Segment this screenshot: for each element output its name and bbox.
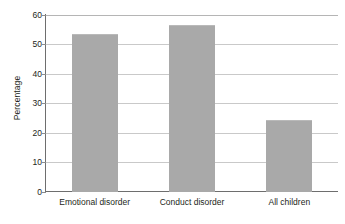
y-axis-tick-mark [42,44,46,45]
x-axis-tick-label: Conduct disorder [160,198,225,207]
x-axis-tick-label: Emotional disorder [59,198,130,207]
y-axis-tick-label: 60 [24,10,42,19]
y-axis-tick-mark [42,103,46,104]
x-axis-tick-label: All children [269,198,311,207]
y-axis-tick-label: 0 [24,187,42,196]
bar-chart-figure: Percentage 0102030405060 Emotional disor… [0,0,345,224]
bar [169,25,215,191]
bar [72,34,118,191]
y-axis-title: Percentage [10,0,24,195]
y-axis-tick-label: 30 [24,99,42,108]
y-axis-tick-label: 50 [24,40,42,49]
y-axis-title-label: Percentage [12,75,22,119]
y-axis-tick-labels: 0102030405060 [24,0,42,224]
y-axis-tick-mark [42,133,46,134]
y-axis-tick-mark [42,162,46,163]
y-axis-tick-mark [42,15,46,16]
x-axis-tick-labels: Emotional disorderConduct disorderAll ch… [46,198,338,216]
bar [266,120,312,192]
plot-area [46,15,338,192]
gridline [46,15,338,16]
y-axis-tick-label: 10 [24,158,42,167]
y-axis-tick-label: 20 [24,128,42,137]
y-axis-tick-mark [42,74,46,75]
y-axis-tick-mark [42,192,46,193]
y-axis-tick-label: 40 [24,69,42,78]
